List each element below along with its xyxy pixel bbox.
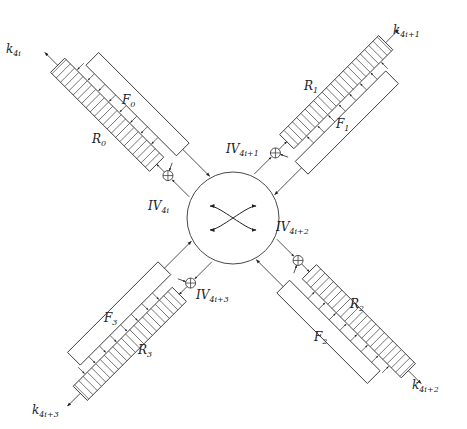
key-label-3: k4i+3 [32, 403, 59, 419]
interconnect-diagram: k4i F0 R0 IV4i k4i+1 R1 F1 IV4i+1 IV4i+2… [0, 0, 467, 429]
crossbar-switch [187, 172, 279, 264]
iv-label-3: IV4i+3 [195, 288, 229, 304]
key-label-2: k4i+2 [412, 378, 439, 394]
iv-label-2: IV4i+2 [275, 220, 309, 236]
register-label-3: R3 [137, 343, 152, 359]
register-label-1: R1 [303, 79, 318, 95]
key-label-1: k4i+1 [393, 23, 420, 39]
register-label-2: R2 [349, 297, 364, 313]
arm-0 [38, 26, 216, 204]
iv-label-1: IV4i+1 [225, 142, 259, 158]
iv-label-0: IV4i [147, 199, 169, 215]
register-label-0: R0 [91, 132, 106, 148]
arm-1 [247, 23, 425, 201]
arm-3 [41, 235, 219, 413]
arm-2 [250, 232, 428, 410]
key-label-0: k4i [6, 42, 21, 58]
